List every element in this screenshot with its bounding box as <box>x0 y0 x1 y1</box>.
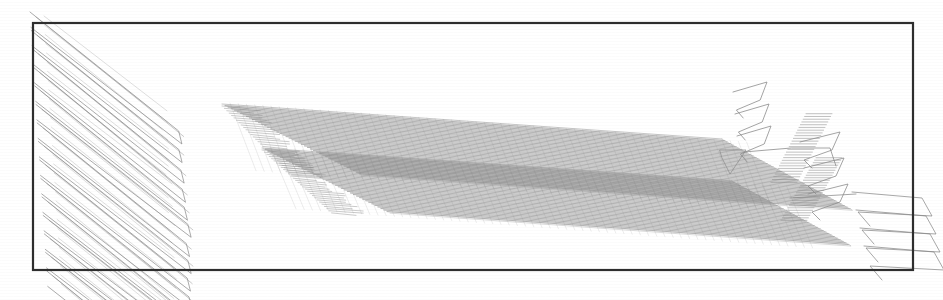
figure-root: Serpentine space-filling path diagram <box>0 0 943 300</box>
serpentine-path-figure: Serpentine space-filling path diagram <box>0 0 943 300</box>
